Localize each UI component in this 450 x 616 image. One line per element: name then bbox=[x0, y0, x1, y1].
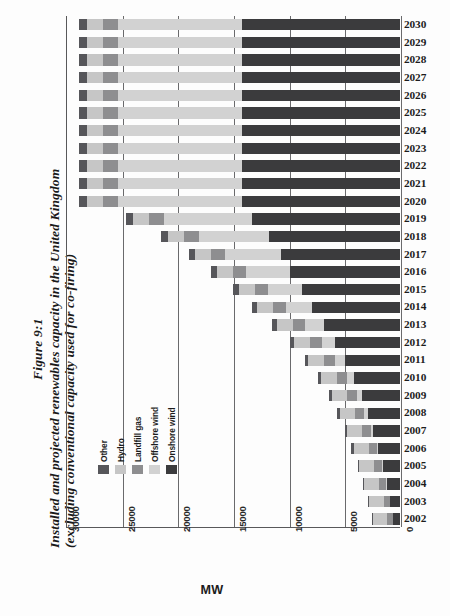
bar-row[interactable] bbox=[67, 157, 400, 175]
bar-segment-offshore-wind bbox=[118, 37, 242, 48]
figure-title-line-1: Installed and projected renewables capac… bbox=[47, 169, 63, 548]
year-label-2022: 2022 bbox=[404, 157, 446, 175]
stacked-bar[interactable] bbox=[125, 213, 400, 224]
bar-row[interactable] bbox=[67, 246, 400, 264]
bar-row[interactable] bbox=[67, 104, 400, 122]
stacked-bar[interactable] bbox=[79, 72, 400, 83]
stacked-bar[interactable] bbox=[79, 19, 400, 30]
bar-segment-onshore-wind bbox=[242, 160, 400, 171]
bar-segment-landfill-gas bbox=[103, 178, 118, 189]
stacked-bar[interactable] bbox=[79, 196, 400, 207]
bar-segment-onshore-wind bbox=[242, 178, 400, 189]
stacked-bar[interactable] bbox=[363, 478, 400, 489]
bar-segment-offshore-wind bbox=[118, 125, 242, 136]
chart-legend: OtherHydroLandfill gasOffshore windOnsho… bbox=[98, 398, 182, 474]
bar-segment-onshore-wind bbox=[354, 372, 400, 383]
bar-row[interactable] bbox=[67, 298, 400, 316]
bar-segment-other bbox=[79, 37, 87, 48]
stacked-bar[interactable] bbox=[79, 160, 400, 171]
bar-segment-hydro bbox=[277, 319, 293, 330]
bar-segment-landfill-gas bbox=[273, 302, 286, 313]
year-label-2005: 2005 bbox=[404, 457, 446, 475]
bar-row[interactable] bbox=[67, 351, 400, 369]
bar-row[interactable] bbox=[67, 493, 400, 511]
year-label-2030: 2030 bbox=[404, 16, 446, 34]
stacked-bar[interactable] bbox=[290, 337, 400, 348]
bar-row[interactable] bbox=[67, 175, 400, 193]
year-label-2009: 2009 bbox=[404, 387, 446, 405]
bar-segment-offshore-wind bbox=[268, 284, 302, 295]
bar-segment-hydro bbox=[133, 213, 149, 224]
stacked-bar[interactable] bbox=[372, 513, 400, 524]
stacked-bar[interactable] bbox=[79, 178, 400, 189]
legend-label: Landfill gas bbox=[133, 417, 143, 462]
stacked-bar[interactable] bbox=[345, 425, 400, 436]
stacked-bar[interactable] bbox=[351, 443, 400, 454]
bar-row[interactable] bbox=[67, 334, 400, 352]
bar-segment-offshore-wind bbox=[118, 72, 242, 83]
stacked-bar[interactable] bbox=[329, 390, 400, 401]
figure-title-block: Figure 9:1 Installed and projected renew… bbox=[0, 0, 62, 560]
stacked-bar[interactable] bbox=[368, 496, 400, 507]
stacked-bar[interactable] bbox=[318, 372, 400, 383]
bar-row[interactable] bbox=[67, 87, 400, 105]
bar-segment-offshore-wind bbox=[118, 160, 242, 171]
legend-swatch-offshore-wind bbox=[149, 465, 160, 474]
bar-segment-landfill-gas bbox=[347, 390, 357, 401]
bar-segment-offshore-wind bbox=[225, 249, 281, 260]
stacked-bar[interactable] bbox=[79, 107, 400, 118]
bar-row[interactable] bbox=[67, 193, 400, 211]
x-tick-0: 0 bbox=[404, 527, 415, 532]
bar-row[interactable] bbox=[67, 69, 400, 87]
bar-row[interactable] bbox=[67, 122, 400, 140]
bar-row[interactable] bbox=[67, 51, 400, 69]
year-label-2002: 2002 bbox=[404, 510, 446, 528]
bar-segment-onshore-wind bbox=[242, 107, 400, 118]
bar-segment-hydro bbox=[87, 37, 104, 48]
stacked-bar[interactable] bbox=[79, 143, 400, 154]
stacked-bar[interactable] bbox=[211, 266, 400, 277]
bar-segment-offshore-wind bbox=[118, 54, 242, 65]
stacked-bar[interactable] bbox=[161, 231, 400, 242]
bar-segment-onshore-wind bbox=[345, 355, 400, 366]
stacked-bar[interactable] bbox=[79, 90, 400, 101]
stacked-bar[interactable] bbox=[252, 302, 400, 313]
bar-row[interactable] bbox=[67, 140, 400, 158]
bar-segment-onshore-wind bbox=[242, 19, 400, 30]
bar-row[interactable] bbox=[67, 228, 400, 246]
stacked-bar[interactable] bbox=[79, 125, 400, 136]
stacked-bar[interactable] bbox=[357, 460, 400, 471]
stacked-bar[interactable] bbox=[79, 37, 400, 48]
stacked-bar[interactable] bbox=[188, 249, 400, 260]
bar-segment-offshore-wind bbox=[118, 196, 242, 207]
bar-segment-onshore-wind bbox=[378, 443, 400, 454]
year-label-2015: 2015 bbox=[404, 281, 446, 299]
bar-segment-hydro bbox=[168, 231, 184, 242]
bar-row[interactable] bbox=[67, 34, 400, 52]
bar-segment-other bbox=[79, 143, 87, 154]
bar-row[interactable] bbox=[67, 281, 400, 299]
bar-segment-landfill-gas bbox=[103, 90, 118, 101]
bar-segment-hydro bbox=[347, 425, 362, 436]
x-axis-title: MW bbox=[0, 583, 450, 597]
bar-row[interactable] bbox=[67, 316, 400, 334]
bar-row[interactable] bbox=[67, 210, 400, 228]
bar-row[interactable] bbox=[67, 16, 400, 34]
bar-segment-offshore-wind bbox=[305, 319, 324, 330]
bar-segment-landfill-gas bbox=[103, 196, 118, 207]
bar-segment-other bbox=[126, 213, 133, 224]
bar-segment-onshore-wind bbox=[387, 478, 400, 489]
bar-segment-hydro bbox=[87, 107, 104, 118]
stacked-bar[interactable] bbox=[79, 54, 400, 65]
bar-row[interactable] bbox=[67, 475, 400, 493]
stacked-bar[interactable] bbox=[305, 355, 400, 366]
stacked-bar[interactable] bbox=[272, 319, 400, 330]
bar-row[interactable] bbox=[67, 263, 400, 281]
bar-segment-hydro bbox=[87, 196, 104, 207]
bar-row[interactable] bbox=[67, 369, 400, 387]
stacked-bar[interactable] bbox=[233, 284, 400, 295]
bar-segment-onshore-wind bbox=[242, 54, 400, 65]
legend-swatch-hydro bbox=[115, 465, 126, 474]
stacked-bar[interactable] bbox=[337, 408, 400, 419]
bar-segment-hydro bbox=[257, 302, 273, 313]
